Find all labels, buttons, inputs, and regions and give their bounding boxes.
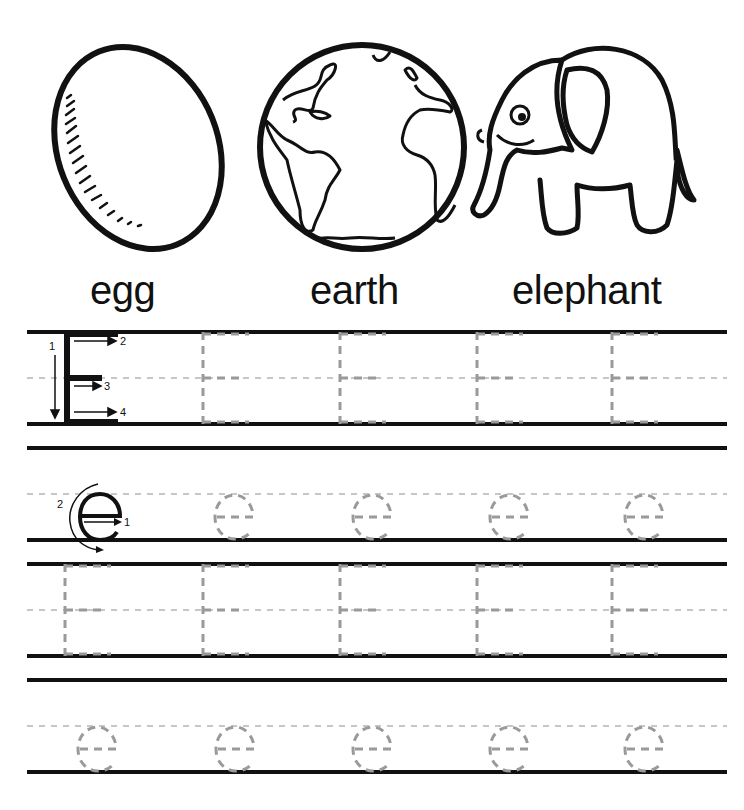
svg-text:2: 2 bbox=[120, 335, 126, 347]
svg-text:1: 1 bbox=[49, 340, 55, 352]
svg-text:4: 4 bbox=[120, 406, 126, 418]
svg-text:1: 1 bbox=[124, 516, 130, 528]
row-lowercase-1: 1 2 bbox=[27, 484, 727, 564]
row-lowercase-2 bbox=[27, 726, 727, 772]
svg-text:3: 3 bbox=[104, 380, 110, 392]
row-uppercase-2 bbox=[27, 564, 727, 680]
row-uppercase-1: 1234 bbox=[27, 332, 727, 448]
svg-text:2: 2 bbox=[57, 498, 63, 510]
handwriting-lines: 1234 1 2 bbox=[0, 0, 744, 810]
